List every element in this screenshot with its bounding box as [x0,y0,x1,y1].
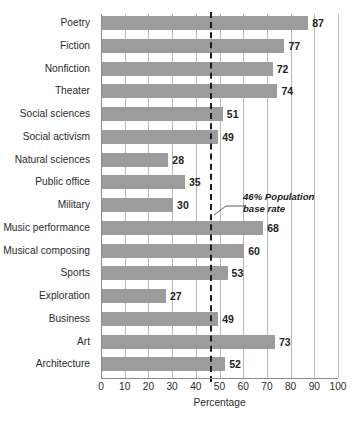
x-tick-label: 100 [323,381,353,392]
category-label-music-performance: Music performance [3,221,90,235]
category-label-theater: Theater [55,84,90,98]
bar-public-office [102,175,185,189]
bar-value-label: 77 [288,39,300,53]
category-label-fiction: Fiction [60,39,90,53]
category-label-military: Military [58,198,90,212]
bar-chart: PoetryFictionNonfictionTheaterSocial sci… [0,0,362,431]
bar-musical-composing [102,244,244,258]
bar-value-label: 52 [229,357,241,371]
category-label-poetry: Poetry [61,16,90,30]
bar-architecture [102,357,225,371]
reference-line-annotation-line1: 46% Population [243,191,314,203]
bar-value-label: 87 [312,16,324,30]
bar-value-label: 68 [267,221,279,235]
bar-military [102,198,173,212]
bar-social-sciences [102,107,223,121]
bar-value-label: 35 [189,175,201,189]
category-label-business: Business [49,312,90,326]
bar-value-label: 27 [170,289,182,303]
category-axis-labels: PoetryFictionNonfictionTheaterSocial sci… [0,14,96,378]
category-label-sports: Sports [61,266,90,280]
bar-value-label: 60 [248,244,260,258]
x-axis-line [101,378,338,379]
bar-natural-sciences [102,153,168,167]
bar-social-activism [102,130,218,144]
bar-music-performance [102,221,263,235]
bar-nonfiction [102,62,273,76]
bar-business [102,312,218,326]
category-label-natural-sciences: Natural sciences [15,153,90,167]
category-label-musical-composing: Musical composing [3,244,90,258]
x-axis-title: Percentage [101,397,338,408]
category-label-art: Art [77,335,90,349]
gridline [338,14,339,378]
bar-theater [102,84,277,98]
bar-exploration [102,289,166,303]
bar-value-label: 28 [172,153,184,167]
reference-line-annotation: 46% Population base rate [243,191,314,215]
bar-poetry [102,16,308,30]
bar-value-label: 73 [279,335,291,349]
category-label-architecture: Architecture [36,357,90,371]
reference-line [210,12,212,382]
bar-sports [102,266,228,280]
bar-value-label: 49 [222,312,234,326]
reference-line-annotation-line2: base rate [243,203,314,215]
category-label-social-sciences: Social sciences [20,107,90,121]
bar-value-label: 74 [281,84,293,98]
bar-fiction [102,39,284,53]
bar-value-label: 49 [222,130,234,144]
category-label-nonfiction: Nonfiction [45,62,90,76]
bar-art [102,335,275,349]
category-label-social-activism: Social activism [23,130,90,144]
bar-value-label: 72 [277,62,289,76]
category-label-public-office: Public office [35,175,90,189]
bar-value-label: 53 [232,266,244,280]
bar-value-label: 51 [227,107,239,121]
category-label-exploration: Exploration [39,289,90,303]
gridline [314,14,315,378]
annotation-leader-line [214,204,244,215]
bar-value-label: 30 [177,198,189,212]
